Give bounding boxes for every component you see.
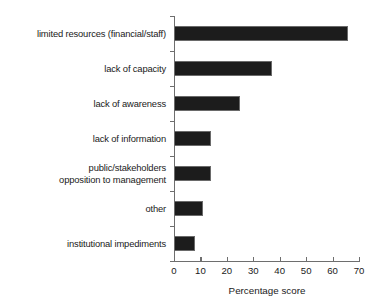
- x-axis-tick-label: 20: [222, 265, 233, 276]
- bar: [174, 96, 240, 111]
- category-label: public/stakeholders opposition to manage…: [59, 162, 166, 185]
- x-axis-title: Percentage score: [174, 285, 360, 296]
- x-axis-tick: [280, 257, 281, 261]
- x-axis-tick-label: 70: [354, 265, 365, 276]
- category-label: institutional impediments: [67, 238, 166, 250]
- category-label: lack of awareness: [94, 98, 167, 110]
- bar-chart: limited resources (financial/staff)lack …: [0, 0, 378, 307]
- bar: [174, 131, 211, 146]
- y-axis-tick: [170, 16, 174, 17]
- x-axis-tick: [359, 257, 360, 261]
- x-axis-tick: [200, 257, 201, 261]
- y-axis-tick: [170, 191, 174, 192]
- x-axis: 010203040506070: [174, 261, 360, 263]
- category-label: lack of information: [93, 133, 166, 145]
- x-axis-tick-label: 30: [248, 265, 259, 276]
- category-label: limited resources (financial/staff): [37, 28, 166, 40]
- x-axis-tick-label: 10: [195, 265, 206, 276]
- category-label: lack of capacity: [104, 63, 166, 75]
- x-axis-line: [174, 261, 360, 262]
- bar: [174, 26, 348, 41]
- x-axis-tick: [227, 257, 228, 261]
- y-axis-tick: [170, 86, 174, 87]
- y-axis-tick: [170, 51, 174, 52]
- x-axis-tick-label: 50: [301, 265, 312, 276]
- bar: [174, 166, 211, 181]
- x-axis-tick-label: 40: [274, 265, 285, 276]
- y-axis-tick: [170, 226, 174, 227]
- x-axis-tick: [174, 257, 175, 261]
- category-axis-labels: limited resources (financial/staff)lack …: [0, 0, 172, 307]
- bar: [174, 201, 203, 216]
- x-axis-tick: [306, 257, 307, 261]
- bar: [174, 61, 272, 76]
- x-axis-tick-label: 0: [171, 265, 176, 276]
- plot-area: [174, 16, 359, 261]
- x-axis-tick: [333, 257, 334, 261]
- y-axis-tick: [170, 156, 174, 157]
- x-axis-tick: [253, 257, 254, 261]
- x-axis-tick-label: 60: [327, 265, 338, 276]
- category-label: other: [145, 203, 166, 215]
- bar-series: [174, 16, 359, 261]
- bar: [174, 236, 195, 251]
- y-axis-tick: [170, 121, 174, 122]
